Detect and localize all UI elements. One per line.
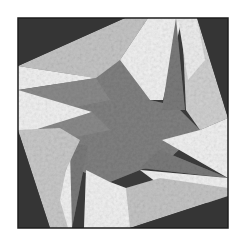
quilt-block-image (0, 0, 246, 246)
quilt-block (0, 0, 246, 246)
